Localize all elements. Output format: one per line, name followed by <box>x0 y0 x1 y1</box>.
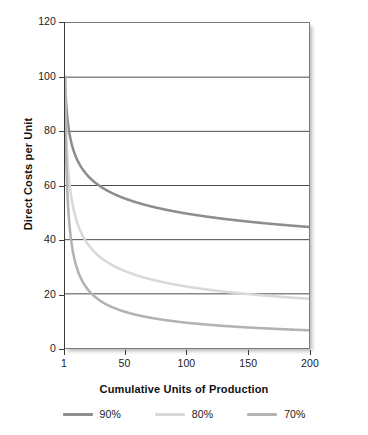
legend-item[interactable]: 70% <box>247 408 305 420</box>
legend-label: 90% <box>100 408 121 420</box>
plot-svg <box>65 23 309 348</box>
legend-item[interactable]: 80% <box>155 408 213 420</box>
y-tick-label: 60 <box>44 179 56 191</box>
y-tick-mark <box>59 186 64 187</box>
legend-label: 80% <box>192 408 213 420</box>
y-tick-label: 100 <box>38 70 56 82</box>
x-tick-mark <box>310 350 311 355</box>
y-tick-label: 120 <box>38 15 56 27</box>
y-tick-label: 80 <box>44 124 56 136</box>
legend-swatch-icon <box>247 413 277 416</box>
x-tick-label: 1 <box>44 357 84 369</box>
y-tick-label: 20 <box>44 288 56 300</box>
y-axis-title: Direct Costs per Unit <box>22 84 34 264</box>
legend-item[interactable]: 90% <box>63 408 121 420</box>
x-tick-label: 100 <box>166 357 206 369</box>
y-tick-mark <box>59 131 64 132</box>
y-axis-line <box>64 22 65 350</box>
series-curves <box>65 77 309 330</box>
series-line-70 <box>65 77 309 330</box>
chart-container: 020406080100120 Direct Costs per Unit 15… <box>0 0 368 435</box>
x-axis-title: Cumulative Units of Production <box>0 383 368 395</box>
legend-label: 70% <box>284 408 305 420</box>
plot-area <box>64 22 310 349</box>
y-tick-mark <box>59 77 64 78</box>
x-tick-label: 150 <box>228 357 268 369</box>
legend-swatch-icon <box>155 413 185 416</box>
x-tick-label: 200 <box>290 357 330 369</box>
chart-legend: 90%80%70% <box>0 408 368 420</box>
x-tick-mark <box>248 350 249 355</box>
y-tick-mark <box>59 240 64 241</box>
x-tick-mark <box>64 350 65 355</box>
x-tick-label: 50 <box>105 357 145 369</box>
x-tick-mark <box>125 350 126 355</box>
gridlines <box>65 77 309 294</box>
legend-swatch-icon <box>63 413 93 416</box>
series-line-90 <box>65 77 309 227</box>
x-tick-mark <box>186 350 187 355</box>
y-tick-mark <box>59 295 64 296</box>
y-tick-mark <box>59 22 64 23</box>
y-tick-label: 40 <box>44 233 56 245</box>
y-tick-label: 0 <box>50 342 56 354</box>
